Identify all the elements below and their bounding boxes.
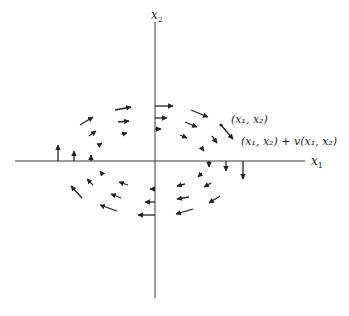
x2-axis-label-var: x: [151, 8, 158, 22]
vector-arrow: [87, 179, 93, 185]
vector-arrow: [176, 209, 193, 214]
vector-arrow: [80, 117, 93, 125]
point-plus-vector-annotation: (x₁, x₂) + v(x₁, x₂): [241, 135, 337, 148]
vector-arrow: [201, 147, 204, 151]
vector-arrow: [100, 205, 117, 211]
vector-arrow: [209, 196, 220, 203]
x1-axis-label-var: x: [311, 154, 318, 168]
vector-arrow: [191, 110, 208, 117]
point-plus-vector-annotation-text: (x₁, x₂) + v(x₁, x₂): [241, 135, 337, 148]
vector-arrow: [115, 107, 131, 110]
vector-arrow: [118, 121, 129, 122]
vector-arrow: [177, 184, 185, 186]
x2-axis-label: x2: [151, 8, 163, 24]
vector-arrow: [123, 133, 127, 134]
vector-arrow: [100, 171, 103, 175]
vector-arrow: [221, 125, 233, 139]
x2-axis-label-sub: 2: [158, 15, 163, 24]
vector-arrow: [99, 143, 102, 145]
x1-axis-label: x1: [311, 154, 323, 170]
x1-axis-label-sub: 1: [318, 161, 323, 170]
vector-arrow: [204, 183, 211, 187]
vector-arrow: [119, 182, 128, 185]
vector-arrow: [71, 186, 82, 198]
vector-arrow: [89, 131, 96, 136]
vector-field-diagram: [0, 0, 349, 316]
point-annotation-text: (x₁, x₂): [231, 113, 268, 126]
vector-arrow: [185, 122, 197, 127]
point-annotation: (x₁, x₂): [231, 113, 268, 126]
vector-arrow: [111, 194, 121, 198]
vector-arrow: [198, 173, 202, 177]
vector-arrow: [177, 197, 189, 199]
vector-arrow: [212, 136, 217, 143]
vector-arrow: [180, 135, 187, 138]
